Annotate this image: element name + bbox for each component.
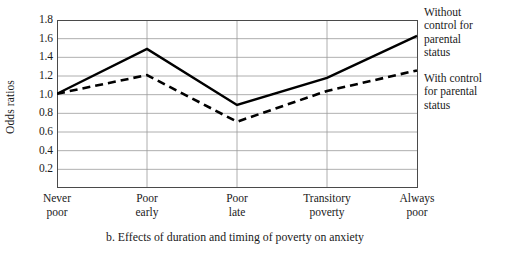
legend-label-line: parental bbox=[424, 33, 507, 46]
chart-svg bbox=[57, 20, 418, 188]
y-tick-label: 0.2 bbox=[23, 163, 53, 174]
y-tick-label: 0.8 bbox=[23, 107, 53, 118]
y-axis-tick-labels: 1.81.61.41.21.00.80.60.40.2 bbox=[20, 20, 53, 188]
plot-area bbox=[57, 20, 418, 188]
legend-item-without-control: Withoutcontrol forparentalstatus bbox=[424, 6, 507, 59]
y-axis-title-text: Odds ratios bbox=[4, 62, 16, 152]
y-tick-label: 1.8 bbox=[23, 14, 53, 25]
figure-panel: Odds ratios 1.81.61.41.21.00.80.60.40.2 … bbox=[0, 0, 507, 256]
y-tick-label: 1.4 bbox=[23, 51, 53, 62]
x-axis-tick-labels: NeverpoorPoorearlyPoorlateTransitorypove… bbox=[0, 192, 507, 226]
y-tick-label: 0.4 bbox=[23, 145, 53, 156]
y-tick-label: 0.6 bbox=[23, 126, 53, 137]
legend-label-line: control for bbox=[424, 19, 507, 32]
x-tick-label-line: Always bbox=[357, 192, 477, 206]
y-tick-label: 1.0 bbox=[23, 89, 53, 100]
y-tick-label: 1.2 bbox=[23, 70, 53, 81]
legend-label-line: With control bbox=[424, 72, 507, 85]
legend-label-line: status bbox=[424, 99, 507, 112]
x-tick-label: Alwayspoor bbox=[357, 192, 477, 219]
y-tick-label: 1.6 bbox=[23, 33, 53, 44]
x-tick-label-line: poor bbox=[357, 206, 477, 220]
legend-label-line: status bbox=[424, 46, 507, 59]
legend-label-line: for parental bbox=[424, 85, 507, 98]
legend-item-with-control: With controlfor parentalstatus bbox=[424, 72, 507, 112]
legend-label-line: Without bbox=[424, 6, 507, 19]
figure-caption: b. Effects of duration and timing of pov… bbox=[0, 230, 470, 245]
